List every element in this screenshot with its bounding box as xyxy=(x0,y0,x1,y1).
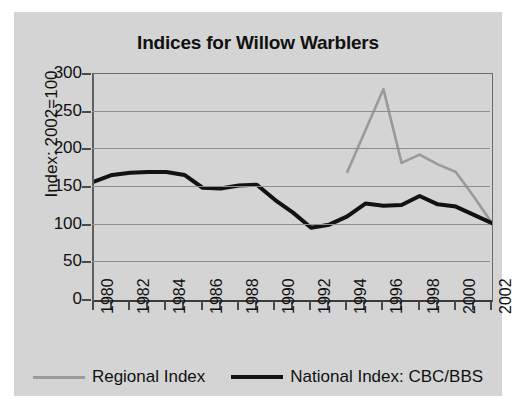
x-tick-label: 1980 xyxy=(99,278,117,314)
x-tick-label: 1998 xyxy=(425,278,443,314)
y-tick-label: 300 xyxy=(22,63,82,83)
x-tick-label: 1988 xyxy=(244,278,262,314)
y-tick-label: 250 xyxy=(22,101,82,121)
y-tick-label: 50 xyxy=(22,251,82,271)
legend-label-regional: Regional Index xyxy=(92,367,205,387)
gridline xyxy=(92,261,490,262)
y-tick-mark xyxy=(82,148,91,150)
x-tick-label: 1992 xyxy=(316,278,334,314)
x-tick-label: 1990 xyxy=(280,278,298,314)
y-tick-label: 200 xyxy=(22,138,82,158)
y-tick-mark xyxy=(82,261,91,263)
legend-swatch-national-icon xyxy=(231,375,283,379)
x-tick-mark xyxy=(273,301,275,310)
y-tick-mark xyxy=(82,186,91,188)
legend-item-regional[interactable]: Regional Index xyxy=(33,367,205,387)
x-tick-label: 1986 xyxy=(208,278,226,314)
x-tick-mark xyxy=(490,301,492,310)
x-tick-mark xyxy=(381,301,383,310)
legend-item-national[interactable]: National Index: CBC/BBS xyxy=(231,367,483,387)
gridline xyxy=(92,148,490,149)
y-axis-title: Index: 2002=100 xyxy=(42,24,62,244)
x-tick-mark xyxy=(128,301,130,310)
x-tick-mark xyxy=(164,301,166,310)
chart-title: Indices for Willow Warblers xyxy=(14,32,502,54)
x-tick-label: 2002 xyxy=(497,278,515,314)
legend-label-national: National Index: CBC/BBS xyxy=(290,367,483,387)
y-tick-mark xyxy=(82,111,91,113)
gridline xyxy=(92,224,490,225)
series-line xyxy=(94,172,492,228)
x-tick-mark xyxy=(201,301,203,310)
plot-area xyxy=(92,73,493,302)
x-tick-mark xyxy=(454,301,456,310)
y-tick-label: 0 xyxy=(22,289,82,309)
x-tick-mark xyxy=(92,301,94,310)
y-tick-label: 150 xyxy=(22,176,82,196)
chart-legend: Regional Index National Index: CBC/BBS xyxy=(14,367,502,387)
x-tick-mark xyxy=(418,301,420,310)
chart-container: Indices for Willow Warblers Index: 2002=… xyxy=(14,12,502,396)
x-tick-mark xyxy=(237,301,239,310)
y-tick-label: 100 xyxy=(22,214,82,234)
y-tick-mark xyxy=(82,73,91,75)
x-tick-mark xyxy=(345,301,347,310)
legend-swatch-regional-icon xyxy=(33,376,85,379)
x-tick-label: 1984 xyxy=(171,278,189,314)
y-tick-mark xyxy=(82,299,91,301)
x-tick-label: 1996 xyxy=(388,278,406,314)
x-tick-label: 2000 xyxy=(461,278,479,314)
x-tick-label: 1982 xyxy=(135,278,153,314)
x-tick-label: 1994 xyxy=(352,278,370,314)
y-tick-mark xyxy=(82,224,91,226)
gridline xyxy=(92,186,490,187)
plot-inner xyxy=(94,74,492,300)
x-tick-mark xyxy=(309,301,311,310)
series-layer xyxy=(94,74,492,300)
gridline xyxy=(92,111,490,112)
